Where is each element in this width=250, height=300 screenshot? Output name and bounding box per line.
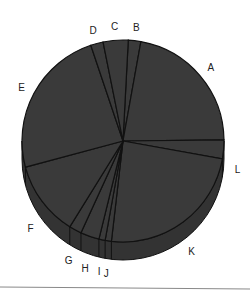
- slice-label-g: G: [65, 255, 73, 266]
- pie-slice-k: [111, 141, 222, 242]
- pie-top-face: [22, 40, 224, 242]
- slice-label-a: A: [208, 62, 215, 73]
- slice-label-f: F: [28, 223, 34, 234]
- slice-label-c: C: [111, 21, 118, 32]
- slice-label-i: I: [98, 266, 101, 277]
- slice-label-d: D: [90, 25, 97, 36]
- pie-chart: BALKJIHGFEDC: [0, 0, 250, 300]
- slice-label-b: B: [133, 22, 140, 33]
- slice-label-e: E: [18, 82, 25, 93]
- pie-slice-a: [123, 42, 224, 141]
- slice-label-h: H: [82, 263, 89, 274]
- slice-label-j: J: [104, 268, 109, 279]
- slice-label-k: K: [188, 246, 195, 257]
- slice-label-l: L: [235, 164, 241, 175]
- baseline-rule: [0, 287, 250, 289]
